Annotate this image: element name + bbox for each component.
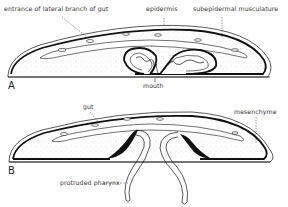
panel-b-gut-opening [157, 118, 164, 121]
panel-b-pharynx-tip-left [126, 200, 130, 202]
panel-a-gut-opening [123, 33, 130, 36]
label-lateral-branch: entrance of lateral branch of gut [4, 5, 108, 12]
label-protruded-pharynx: protruded pharynx [60, 179, 120, 186]
panel-b-gut-opening [92, 124, 99, 127]
panel-b-gut-opening [61, 133, 68, 136]
diagram-canvas [0, 0, 288, 207]
label-mesenchyme: mesenchyme [234, 108, 277, 115]
panel-a-gut-opening [155, 34, 162, 37]
panel-b-drawing [9, 112, 273, 204]
label-mouth: mouth [143, 82, 164, 89]
label-epidermis: epidermis [146, 5, 178, 12]
panel-b-pharynx-tip-right [182, 202, 187, 204]
panel-a-drawing [8, 17, 271, 82]
panel-a-gut-opening [87, 40, 94, 43]
panel-a-leader-lateral-branch [62, 17, 88, 38]
panel-a-gut-opening [195, 39, 202, 42]
panel-letter-a: A [8, 80, 15, 91]
panel-a-gut-opening [232, 49, 239, 52]
label-gut: gut [83, 103, 94, 110]
panel-b-gut-opening [124, 118, 131, 121]
panel-letter-b: B [8, 165, 15, 176]
panel-a-gut-opening [58, 49, 66, 52]
panel-b-gut-opening [232, 132, 238, 135]
label-subepidermal-musculature: subepidermal musculature [193, 5, 278, 12]
